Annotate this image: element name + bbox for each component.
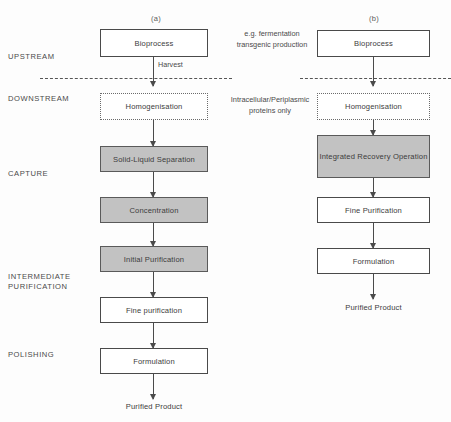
arrow-b-fine-purification-to-formulation	[373, 223, 374, 248]
note-upstream-examples: e.g. fermentation transgenic production	[216, 29, 328, 50]
arrow-b-formulation-to-product	[373, 274, 374, 299]
node-a-concentration[interactable]: Concentration	[100, 197, 208, 223]
arrow-b-homogenisation-to-integrated-recovery	[373, 120, 374, 135]
node-b-integrated-recovery-operation[interactable]: Integrated Recovery Operation	[317, 135, 430, 178]
stage-label-intermediate-purification: INTERMEDIATE PURIFICATION	[8, 272, 71, 292]
column-heading-b: (b)	[322, 14, 426, 23]
node-b-bioprocess[interactable]: Bioprocess	[317, 30, 430, 57]
node-a-bioprocess[interactable]: Bioprocess	[100, 29, 208, 57]
arrow-a-homogenisation-to-solid-liquid	[153, 120, 154, 146]
arrow-a-fine-purification-to-formulation	[153, 323, 154, 348]
node-a-homogenisation[interactable]: Homogenisation	[100, 93, 208, 120]
stage-label-downstream: DOWNSTREAM	[8, 94, 69, 104]
arrow-a-initial-to-fine-purification	[153, 272, 154, 297]
stage-label-capture: CAPTURE	[8, 169, 48, 179]
stage-label-upstream: UPSTREAM	[8, 52, 55, 62]
node-a-fine-purification[interactable]: Fine purification	[100, 297, 208, 323]
arrow-label-harvest: Harvest	[158, 60, 183, 69]
upstream-downstream-divider-right	[300, 78, 451, 79]
terminal-b-purified-product: Purified Product	[317, 303, 430, 312]
stage-label-polishing: POLISHING	[8, 350, 54, 360]
node-b-fine-purification[interactable]: Fine Purification	[317, 197, 430, 223]
arrow-a-bioprocess-to-homogenisation	[153, 57, 154, 86]
node-b-homogenisation[interactable]: Homogenisation	[317, 93, 430, 120]
column-heading-a: (a)	[104, 14, 208, 23]
upstream-downstream-divider-left	[40, 78, 232, 79]
arrow-a-concentration-to-initial-purification	[153, 223, 154, 246]
node-a-formulation[interactable]: Formulation	[100, 348, 208, 374]
arrow-b-bioprocess-to-homogenisation	[373, 57, 374, 86]
note-downstream-scope: Intracellular/Periplasmic proteins only	[208, 95, 332, 116]
arrow-a-solid-liquid-to-concentration	[153, 172, 154, 197]
node-b-formulation[interactable]: Formulation	[317, 248, 430, 274]
node-a-solid-liquid-separation[interactable]: Solid-Liquid Separation	[100, 146, 208, 172]
arrow-b-integrated-recovery-to-fine-purification	[373, 178, 374, 197]
figure-canvas: (a) (b) UPSTREAM DOWNSTREAM CAPTURE INTE…	[0, 0, 451, 422]
node-a-initial-purification[interactable]: Initial Purification	[100, 246, 208, 272]
terminal-a-purified-product: Purified Product	[100, 402, 208, 411]
arrow-a-formulation-to-product	[153, 374, 154, 399]
